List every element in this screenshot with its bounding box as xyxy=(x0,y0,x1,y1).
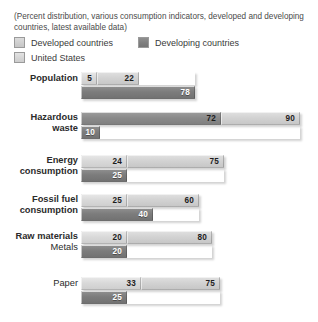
bar-value-label: 60 xyxy=(184,196,198,205)
bar-value-label: 40 xyxy=(138,210,152,219)
bar-value-label: 10 xyxy=(85,128,99,137)
bar-developing: 40 xyxy=(81,208,199,221)
row-label: Paper xyxy=(0,278,78,289)
bar-value-label: 80 xyxy=(197,233,211,242)
legend-label: Developing countries xyxy=(155,38,239,48)
legend-item-united-states: United States xyxy=(14,52,85,63)
row-label-line: Hazardous xyxy=(0,112,78,123)
row-label-line: consumption xyxy=(0,166,78,177)
row-label-line: Population xyxy=(0,73,78,84)
bar-value-label: 25 xyxy=(112,171,126,180)
row-label-line: waste xyxy=(0,123,78,134)
bar-value-label: 90 xyxy=(285,114,299,123)
bar-stacked-upper: 7290 xyxy=(81,112,300,125)
bar-segment: 5 xyxy=(81,72,97,85)
row-bars: 247525 xyxy=(81,155,224,183)
bar-segment: 22 xyxy=(97,72,139,85)
bar-value-label: 20 xyxy=(112,233,126,242)
chart-caption: (Percent distribution, various consumpti… xyxy=(14,12,306,33)
row-label-line: consumption xyxy=(0,205,78,216)
bar-segment: 90 xyxy=(221,112,300,125)
row-label-line: Fossil fuel xyxy=(0,194,78,205)
row-label-line: Raw materials xyxy=(0,231,78,242)
bar-segment: 60 xyxy=(127,194,199,207)
chart-root: (Percent distribution, various consumpti… xyxy=(0,0,318,322)
bar-value-label: 33 xyxy=(126,279,140,288)
row-bars: 52278 xyxy=(81,72,195,100)
light-gray-swatch-icon xyxy=(14,37,25,48)
bar-developing: 20 xyxy=(81,245,212,258)
bar-developing: 25 xyxy=(81,291,220,304)
row-label: Hazardouswaste xyxy=(0,112,78,134)
bar-value-label: 75 xyxy=(209,157,223,166)
bar-value-label: 25 xyxy=(112,293,126,302)
bar-segment: 25 xyxy=(81,169,127,182)
bar-stacked-upper: 522 xyxy=(81,72,195,85)
bar-value-label: 20 xyxy=(112,247,126,256)
dark-gray-swatch-icon xyxy=(138,37,149,48)
row-label: Population xyxy=(0,73,78,84)
bar-value-label: 24 xyxy=(112,157,126,166)
bar-stacked-upper: 2560 xyxy=(81,194,199,207)
row-label-line: Paper xyxy=(0,278,78,289)
bar-segment: 20 xyxy=(81,231,127,244)
legend-label: United States xyxy=(31,53,85,63)
bar-value-label: 22 xyxy=(124,74,138,83)
bar-segment: 78 xyxy=(81,86,195,99)
bar-segment: 10 xyxy=(81,126,100,139)
bar-segment: 40 xyxy=(81,208,153,221)
bar-value-label: 75 xyxy=(205,279,219,288)
row-bars: 337525 xyxy=(81,277,220,305)
bar-segment: 20 xyxy=(81,245,127,258)
row-label-line: Energy xyxy=(0,155,78,166)
bar-segment: 25 xyxy=(81,194,127,207)
chart-legend: Developed countries Developing countries… xyxy=(14,37,306,67)
legend-item-developed: Developed countries xyxy=(14,37,113,48)
row-label-line: Metals xyxy=(0,242,78,253)
bar-value-label: 5 xyxy=(87,74,96,83)
bar-segment: 24 xyxy=(81,155,127,168)
row-label: Energyconsumption xyxy=(0,155,78,177)
bar-developing: 78 xyxy=(81,86,195,99)
bar-segment: 75 xyxy=(141,277,220,290)
bar-stacked-upper: 2080 xyxy=(81,231,212,244)
row-label: Fossil fuelconsumption xyxy=(0,194,78,216)
bar-segment: 80 xyxy=(127,231,212,244)
bar-developing: 25 xyxy=(81,169,224,182)
bar-value-label: 72 xyxy=(206,114,220,123)
bar-stacked-upper: 2475 xyxy=(81,155,224,168)
bar-developing: 10 xyxy=(81,126,300,139)
bar-segment: 75 xyxy=(127,155,224,168)
bar-value-label: 78 xyxy=(180,88,194,97)
lightest-gray-swatch-icon xyxy=(14,52,25,63)
row-bars: 256040 xyxy=(81,194,199,222)
bar-value-label: 25 xyxy=(112,196,126,205)
bar-stacked-upper: 3375 xyxy=(81,277,220,290)
legend-item-developing: Developing countries xyxy=(138,37,239,48)
row-bars: 729010 xyxy=(81,112,300,140)
bar-segment: 33 xyxy=(81,277,141,290)
bar-segment: 72 xyxy=(81,112,221,125)
row-bars: 208020 xyxy=(81,231,212,259)
bar-segment: 25 xyxy=(81,291,127,304)
legend-label: Developed countries xyxy=(31,38,113,48)
row-label: Raw materialsMetals xyxy=(0,231,78,253)
